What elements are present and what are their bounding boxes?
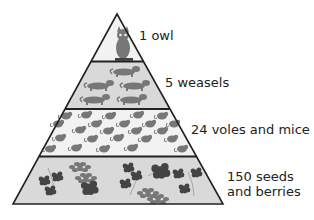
tier-weasels xyxy=(65,62,170,110)
label-seeds-line1: 150 seeds xyxy=(227,169,294,184)
label-voles-and-mice: 24 voles and mice xyxy=(191,122,310,137)
tier-owl xyxy=(91,14,144,62)
label-weasels: 5 weasels xyxy=(165,75,229,90)
label-owl: 1 owl xyxy=(139,28,174,43)
label-seeds-line2: and berries xyxy=(227,184,301,199)
